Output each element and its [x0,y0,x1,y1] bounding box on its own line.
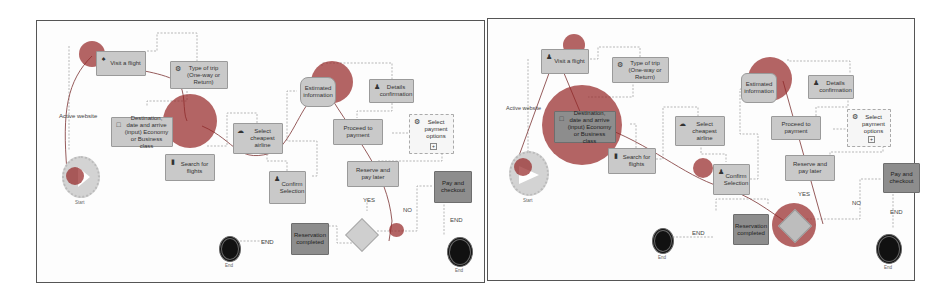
user-icon: ♟ [545,53,552,60]
task-reserve-pay-later[interactable]: Reserve and pay later [785,155,835,181]
document-icon: □ [115,121,122,128]
task-pay-checkout[interactable]: Pay and checkout [434,171,472,203]
task-type-of-trip[interactable]: ⚙ Type of trip (One-way or Return) [612,57,669,83]
task-confirm-selection[interactable]: ♟ Confirm Selection [269,171,306,204]
end-event[interactable] [652,228,674,254]
end-event[interactable] [219,236,241,262]
user-icon: ♟ [717,168,724,175]
subprocess-select-payment[interactable]: ⚙ Select payment options + [409,114,454,154]
user-icon: ♟ [812,79,819,86]
end-label: End [455,268,463,273]
edge-label-end-2: END [890,209,903,215]
task-reservation-completed[interactable]: Reservation completed [733,214,769,245]
task-search-flights[interactable]: ▮ Search for flights [608,148,656,174]
task-search-flights[interactable]: ▮ Search for flights [165,154,215,181]
start-label: Start [75,200,85,205]
cloud-icon: ☁ [679,120,686,127]
edge-label-no: NO [852,200,861,206]
user-icon: ♠ [100,55,107,62]
gear-icon: ⚙ [174,65,181,72]
task-proceed-payment[interactable]: Proceed to payment [771,116,821,140]
task-reserve-pay-later[interactable]: Reserve and pay later [347,161,399,187]
start-event[interactable] [509,151,549,196]
folder-icon: ▮ [169,158,176,165]
data-store-estimated-info[interactable]: Estimated information [300,77,336,107]
end-label: End [225,263,233,268]
end-event[interactable] [876,234,902,264]
edge-label-end-1: END [692,230,705,236]
end-event[interactable] [447,237,473,267]
arrow-right-icon [519,166,539,184]
data-store-estimated-info[interactable]: Estimated information [741,73,777,103]
edge-label-yes: YES [363,197,375,203]
arrow-right-icon [78,167,90,187]
task-type-of-trip[interactable]: ⚙ Type of trip (One-way or Return) [170,61,228,89]
expand-subprocess-icon[interactable]: + [868,136,875,143]
expand-subprocess-icon[interactable]: + [430,143,437,150]
edge-label-active-website: Active website [59,113,97,119]
folder-icon: ▮ [612,152,619,159]
start-label: Start [523,198,533,203]
start-event[interactable] [62,156,100,198]
subprocess-select-payment[interactable]: ⚙ Select payment options + [847,109,891,147]
gear-icon: ⚙ [413,118,420,125]
task-visit-flight[interactable]: ♠ Visit a flight [96,51,146,76]
edge-label-end-1: END [261,239,274,245]
task-select-cheapest[interactable]: ☁ Select cheapest airline [233,123,283,154]
diagram-panel-right: Start Active website ♟ Visit a flight ⚙ … [487,18,915,281]
task-details-confirmation[interactable]: ♟ Details confirmation [808,75,854,99]
edge-label-no: NO [403,207,412,213]
task-confirm-selection[interactable]: ♟ Confirm Selection [713,164,750,195]
document-icon: □ [558,115,565,122]
end-label: End [658,255,666,260]
user-icon: ♟ [273,175,280,182]
diagram-panel-left: Start Active website ♠ Visit a flight ⚙ … [36,20,485,283]
task-destination[interactable]: □ Destination, date and arrive (input) E… [111,117,173,147]
edge-label-yes: YES [798,191,810,197]
task-details-confirmation[interactable]: ♟ Details confirmation [369,79,414,103]
task-select-cheapest[interactable]: ☁ Select cheapest airline [675,116,725,146]
gear-icon: ⚙ [616,61,623,68]
edge-label-active-website: Active website [506,105,541,111]
task-reservation-completed[interactable]: Reservation completed [291,223,329,255]
task-pay-checkout[interactable]: Pay and checkout [883,163,920,193]
edge-label-end-2: END [450,217,463,223]
task-visit-flight[interactable]: ♟ Visit a flight [541,49,589,74]
end-label: End [884,265,892,270]
task-destination[interactable]: □ Destination, date and arrive (input) E… [554,111,616,143]
cloud-icon: ☁ [237,127,244,134]
user-icon: ♟ [373,83,380,90]
task-proceed-payment[interactable]: Proceed to payment [333,119,383,145]
gear-icon: ⚙ [851,113,858,120]
